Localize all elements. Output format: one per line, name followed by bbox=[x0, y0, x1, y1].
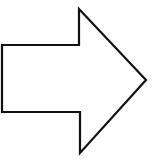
arrow-graphic bbox=[0, 0, 154, 161]
image-canvas bbox=[0, 0, 154, 161]
